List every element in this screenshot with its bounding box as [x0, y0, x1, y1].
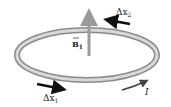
- loop-diagram: B1 Δx2 Δx1 I: [0, 0, 171, 107]
- field-label: B1: [72, 39, 83, 50]
- segment-2-arrow: [108, 20, 130, 24]
- segment-2-label: Δx2: [116, 7, 132, 18]
- segment-1-label: Δx1: [43, 93, 58, 104]
- current-label: I: [144, 87, 149, 97]
- current-loop: [17, 30, 157, 80]
- current-arrow: [122, 81, 146, 90]
- segment-1-arrow: [37, 84, 62, 89]
